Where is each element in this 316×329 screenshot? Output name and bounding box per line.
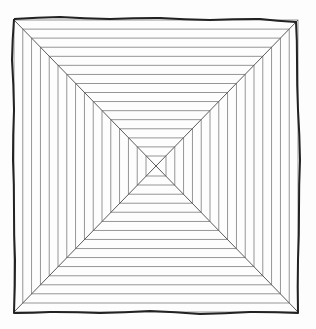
- diagram-canvas: Concentric squares with diagonals: [0, 0, 316, 329]
- concentric-squares-figure: [0, 0, 316, 329]
- corner-diagonals: [14, 20, 298, 312]
